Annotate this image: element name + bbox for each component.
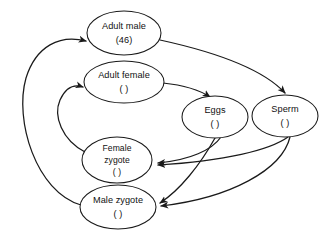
eggs-node[interactable]: Eggs ( ) xyxy=(182,96,248,138)
edges-group xyxy=(23,39,290,206)
male-zygote-label-line1: Male zygote xyxy=(93,195,143,205)
adult-male-node[interactable]: Adult male (46) xyxy=(87,11,161,55)
eggs-ellipse xyxy=(182,96,248,138)
sperm-label-line1: Sperm xyxy=(271,104,299,114)
edge-eggs-to-male-zygote xyxy=(160,138,215,203)
male-zygote-label-line2: ( ) xyxy=(114,209,123,219)
male-zygote-node[interactable]: Male zygote ( ) xyxy=(80,185,156,229)
edge-female-zygote-to-adult-female xyxy=(58,86,85,152)
edge-adult-female-to-eggs xyxy=(163,83,210,97)
nodes-group: Adult male (46) Adult female ( ) Eggs ( … xyxy=(80,11,318,229)
eggs-label-line2: ( ) xyxy=(211,119,220,129)
female-zygote-label-line1: Female xyxy=(103,143,132,153)
edge-sperm-to-female-zygote xyxy=(158,137,288,165)
adult-female-node[interactable]: Adult female ( ) xyxy=(84,61,164,103)
adult-female-label-line1: Adult female xyxy=(98,70,150,80)
edge-eggs-to-female-zygote xyxy=(158,137,221,163)
edge-sperm-to-male-zygote xyxy=(161,137,290,206)
female-zygote-node[interactable]: Female zygote ( ) xyxy=(82,137,152,183)
life-cycle-diagram: Adult male (46) Adult female ( ) Eggs ( … xyxy=(0,0,335,238)
eggs-label-line1: Eggs xyxy=(204,105,225,115)
sperm-label-line2: ( ) xyxy=(281,118,290,128)
adult-female-ellipse xyxy=(84,61,164,103)
adult-female-label-line2: ( ) xyxy=(120,84,129,94)
female-zygote-label-line3: ( ) xyxy=(113,167,121,177)
sperm-ellipse xyxy=(252,95,318,137)
female-zygote-label-line2: zygote xyxy=(104,155,130,165)
diagram-canvas: Adult male (46) Adult female ( ) Eggs ( … xyxy=(0,0,335,238)
edge-male-zygote-to-adult-male xyxy=(23,39,86,205)
male-zygote-ellipse xyxy=(80,185,156,229)
adult-male-label-line1: Adult male xyxy=(102,21,146,31)
adult-male-label-line2: (46) xyxy=(116,35,133,45)
sperm-node[interactable]: Sperm ( ) xyxy=(252,95,318,137)
adult-male-ellipse xyxy=(87,11,161,55)
